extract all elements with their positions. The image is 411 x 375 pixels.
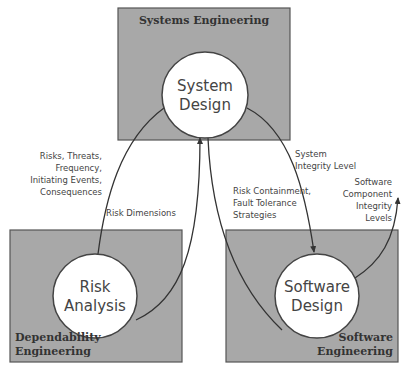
component-integrity-line-1: Software [355, 177, 392, 187]
software-design-label-1: Software [284, 278, 350, 296]
system-design-node [162, 52, 248, 138]
risk-containment-line-3: Strategies [233, 210, 277, 220]
component-integrity-line-3: Integrity [356, 201, 392, 211]
risk-containment-line-2: Fault Tolerance [233, 198, 297, 208]
systems-engineering-title: Systems Engineering [139, 14, 269, 27]
component-integrity-line-2: Component [343, 189, 393, 199]
software-design-label-2: Design [291, 297, 343, 315]
risk-inputs-line-3: Initiating Events, [30, 175, 102, 185]
software-engineering-title-2: Engineering [317, 345, 393, 358]
risk-containment-line-1: Risk Containment, [233, 186, 311, 196]
system-integrity-line-2: Integrity Level [295, 161, 356, 171]
risk-inputs-line-1: Risks, Threats, [40, 151, 102, 161]
component-integrity-line-4: Levels [365, 213, 392, 223]
system-integrity-line-1: System [295, 149, 327, 159]
dependability-title-1: Dependability [15, 331, 101, 344]
system-design-label-2: Design [179, 96, 231, 114]
system-design-label-1: System [177, 77, 233, 95]
dependability-title-2: Engineering [15, 345, 91, 358]
software-engineering-title-1: Software [339, 331, 393, 344]
risk-inputs-line-2: Frequency, [55, 163, 102, 173]
risk-inputs-label: Risks, Threats, Frequency, Initiating Ev… [30, 151, 102, 197]
software-design-node [275, 254, 359, 338]
risk-analysis-node [53, 254, 137, 338]
risk-dimensions-label: Risk Dimensions [106, 208, 177, 218]
component-integrity-label: Software Component Integrity Levels [343, 177, 393, 223]
diagram-canvas: System Design Risk Analysis Software Des… [0, 0, 411, 375]
risk-analysis-label-2: Analysis [64, 297, 126, 315]
risk-analysis-label-1: Risk [79, 278, 110, 296]
risk-inputs-line-4: Consequences [40, 187, 102, 197]
